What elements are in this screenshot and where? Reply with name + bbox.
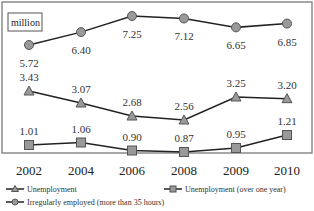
circle-marker [232, 23, 241, 32]
data-label: 0.90 [122, 131, 142, 143]
x-tick-label: 2010 [274, 163, 300, 178]
square-marker [180, 148, 189, 157]
x-tick-label: 2009 [223, 163, 249, 178]
circle-marker [128, 12, 137, 21]
square-marker [25, 141, 34, 150]
legend-label: Unemployment [27, 185, 78, 194]
data-label: 0.87 [174, 132, 194, 144]
data-label: 3.07 [71, 83, 91, 95]
data-label: 2.68 [122, 96, 142, 108]
circle-marker [25, 41, 34, 50]
data-label: 6.65 [226, 39, 246, 51]
x-tick-label: 2002 [16, 163, 42, 178]
data-label: 1.21 [277, 115, 296, 127]
data-label: 3.25 [226, 77, 246, 89]
x-tick-label: 2004 [68, 163, 95, 178]
square-marker [283, 131, 292, 140]
legend-label: Irregularly employed (more than 35 hours… [27, 198, 164, 207]
data-label: 6.85 [277, 36, 297, 48]
data-label: 7.12 [174, 30, 193, 42]
circle-marker [180, 14, 189, 23]
data-label: 3.43 [19, 71, 39, 83]
circle-marker [283, 19, 292, 28]
data-label: 5.72 [19, 57, 38, 69]
square-marker [128, 146, 137, 155]
data-label: 1.01 [19, 125, 38, 137]
data-label: 7.25 [122, 28, 142, 40]
legend-label: Unemployment (over one year) [185, 185, 286, 194]
x-axis: 200220042006200820092010 [16, 163, 300, 178]
data-label: 0.95 [226, 128, 246, 140]
line-chart: million 5.726.407.257.126.656.853.433.07… [0, 0, 314, 211]
data-label: 2.56 [174, 100, 194, 112]
data-label: 1.06 [71, 123, 91, 135]
legend-square-icon [170, 186, 176, 192]
legend-circle-icon [12, 199, 18, 205]
data-label: 3.20 [277, 79, 297, 91]
legend: UnemploymentUnemployment (over one year)… [6, 185, 286, 207]
x-tick-label: 2006 [119, 163, 146, 178]
data-label: 6.40 [71, 44, 91, 56]
square-marker [232, 144, 241, 153]
circle-marker [77, 28, 86, 37]
x-tick-label: 2008 [171, 163, 197, 178]
square-marker [77, 138, 86, 147]
unit-label: million [11, 17, 40, 28]
